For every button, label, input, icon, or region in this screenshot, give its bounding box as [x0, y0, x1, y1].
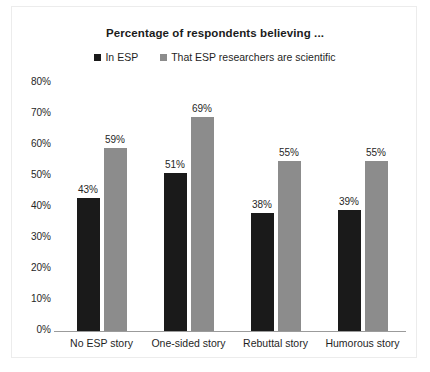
bar[interactable] — [278, 161, 301, 332]
bar-value-label: 55% — [366, 147, 386, 158]
bar[interactable] — [191, 117, 214, 331]
legend-entry-researchers-scientific: That ESP researchers are scientific — [160, 51, 335, 63]
bar-item: 38% — [251, 213, 274, 331]
y-axis-tick-label: 50% — [31, 169, 51, 180]
legend-label-researchers-scientific: That ESP researchers are scientific — [171, 51, 335, 63]
bar-value-label: 39% — [339, 196, 359, 207]
bar-value-label: 38% — [252, 199, 272, 210]
bar[interactable] — [104, 148, 127, 331]
bar-group: 38%55% — [232, 83, 319, 331]
y-axis-tick-label: 40% — [31, 200, 51, 211]
bar[interactable] — [338, 210, 361, 331]
x-axis-category-label: One-sided story — [145, 337, 232, 349]
y-axis-tick-label: 80% — [31, 76, 51, 87]
bar-item: 55% — [278, 161, 301, 332]
chart-title: Percentage of respondents believing ... — [12, 27, 418, 39]
bar-value-label: 59% — [105, 134, 125, 145]
chart-legend: In ESP That ESP researchers are scientif… — [12, 51, 418, 63]
legend-swatch-researchers-scientific — [160, 54, 167, 61]
bar-value-label: 55% — [279, 147, 299, 158]
bar-item: 51% — [164, 173, 187, 331]
y-axis-tick-label: 70% — [31, 107, 51, 118]
y-axis-tick-label: 10% — [31, 293, 51, 304]
x-axis-line — [54, 331, 406, 332]
bar[interactable] — [251, 213, 274, 331]
bar-item: 39% — [338, 210, 361, 331]
bar-group: 51%69% — [145, 83, 232, 331]
y-axis-tick-label: 60% — [31, 138, 51, 149]
bar-value-label: 51% — [165, 159, 185, 170]
x-axis-category-label: Humorous story — [319, 337, 406, 349]
legend-label-in-esp: In ESP — [105, 51, 138, 63]
bar-value-label: 69% — [192, 103, 212, 114]
bar-item: 69% — [191, 117, 214, 331]
y-axis-tick-label: 0% — [37, 324, 51, 335]
bar[interactable] — [365, 161, 388, 332]
y-axis-tick-label: 20% — [31, 262, 51, 273]
legend-entry-in-esp: In ESP — [94, 51, 138, 63]
legend-swatch-in-esp — [94, 54, 101, 61]
bar-item: 59% — [104, 148, 127, 331]
bar-value-label: 43% — [78, 184, 98, 195]
x-axis-category-label: No ESP story — [58, 337, 145, 349]
bar[interactable] — [164, 173, 187, 331]
bar-item: 43% — [77, 198, 100, 331]
bar[interactable] — [77, 198, 100, 331]
bar-item: 55% — [365, 161, 388, 332]
bar-group: 43%59% — [58, 83, 145, 331]
bar-group: 39%55% — [319, 83, 406, 331]
plot-area: 80%70%60%50%40%30%20%10%0% 43%59%51%69%3… — [58, 83, 406, 331]
chart-container: Percentage of respondents believing ... … — [11, 6, 417, 358]
y-axis-tick-label: 30% — [31, 231, 51, 242]
x-axis-category-label: Rebuttal story — [232, 337, 319, 349]
bar-groups: 43%59%51%69%38%55%39%55% — [58, 83, 406, 331]
x-axis-category-labels: No ESP storyOne-sided storyRebuttal stor… — [58, 337, 406, 349]
